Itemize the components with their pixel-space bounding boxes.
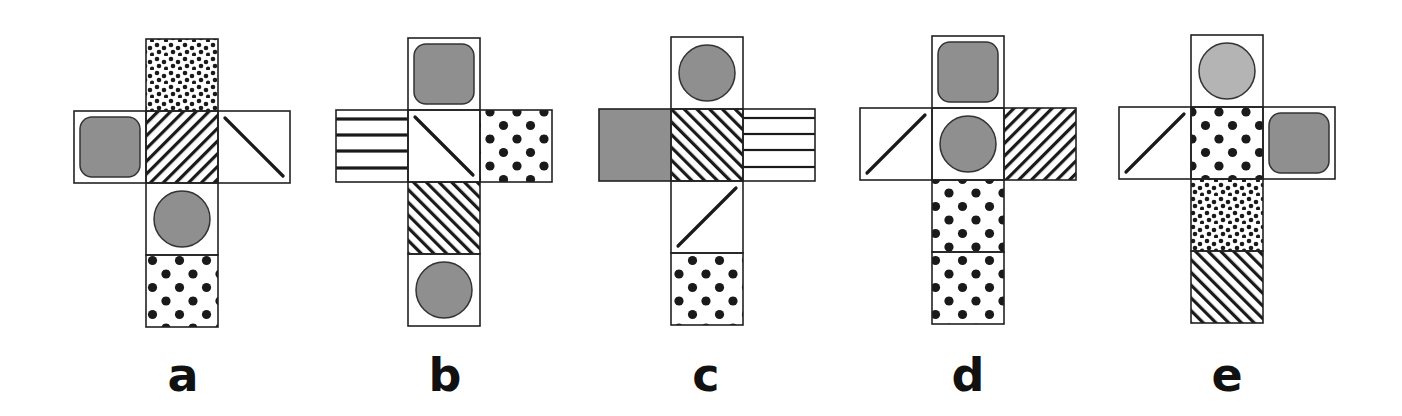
- option-label-c: c: [666, 352, 746, 398]
- face-large-dots: [146, 255, 218, 327]
- face-rounded-square: [1263, 107, 1335, 179]
- cube-net-a: [74, 39, 290, 327]
- face-horizontal-stripes: [336, 110, 408, 182]
- face-rounded-square: [74, 111, 146, 183]
- face-diagonal-line-up: [1119, 107, 1191, 179]
- option-label-d: d: [928, 352, 1008, 398]
- face-large-dots: [932, 180, 1004, 252]
- face-circle-light: [1191, 35, 1263, 107]
- face-rounded-square: [408, 38, 480, 110]
- option-label-b: b: [405, 352, 485, 398]
- option-label-e: e: [1187, 352, 1267, 398]
- face-diagonal-stripes-down: [671, 109, 743, 181]
- face-diagonal-line-down: [218, 111, 290, 183]
- option-label-a: a: [143, 352, 223, 398]
- face-circle: [932, 108, 1004, 180]
- face-large-dots: [671, 253, 743, 325]
- face-solid-gray: [599, 109, 671, 181]
- face-large-dots: [480, 110, 552, 182]
- cube-net-e: [1119, 35, 1335, 323]
- cube-net-d: [860, 36, 1076, 324]
- face-fine-dots: [146, 39, 218, 111]
- face-diagonal-stripes-up: [1004, 108, 1076, 180]
- face-horizontal-stripes-thin: [743, 109, 815, 181]
- face-large-dots: [1191, 107, 1263, 179]
- face-rounded-square: [932, 36, 1004, 108]
- cube-net-c: [599, 37, 815, 325]
- face-large-dots: [932, 252, 1004, 324]
- face-diagonal-stripes-down: [408, 182, 480, 254]
- face-fine-dots: [1191, 179, 1263, 251]
- face-diagonal-line-up: [860, 108, 932, 180]
- face-circle: [146, 183, 218, 255]
- face-circle: [671, 37, 743, 109]
- face-diagonal-line-up: [671, 181, 743, 253]
- face-diagonal-stripes-up: [146, 111, 218, 183]
- face-circle: [408, 254, 480, 326]
- cube-net-b: [336, 38, 552, 326]
- face-diagonal-stripes-down: [1191, 251, 1263, 323]
- cube-nets-figure: abcde: [0, 0, 1402, 416]
- face-diagonal-line-down: [408, 110, 480, 182]
